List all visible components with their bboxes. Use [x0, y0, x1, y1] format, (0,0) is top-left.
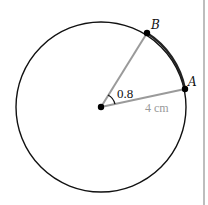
- point-a-label: A: [187, 75, 197, 89]
- right-border: [203, 0, 205, 205]
- arc-ab: [147, 33, 185, 89]
- center-point: [98, 104, 104, 110]
- circle-diagram: B A 0.8 4 cm: [0, 0, 208, 205]
- radius-oa: [101, 89, 185, 107]
- angle-label: 0.8: [117, 86, 133, 101]
- angle-arc: [108, 95, 115, 104]
- point-b: [144, 30, 150, 36]
- radius-label: 4 cm: [145, 101, 169, 115]
- point-b-label: B: [150, 18, 160, 32]
